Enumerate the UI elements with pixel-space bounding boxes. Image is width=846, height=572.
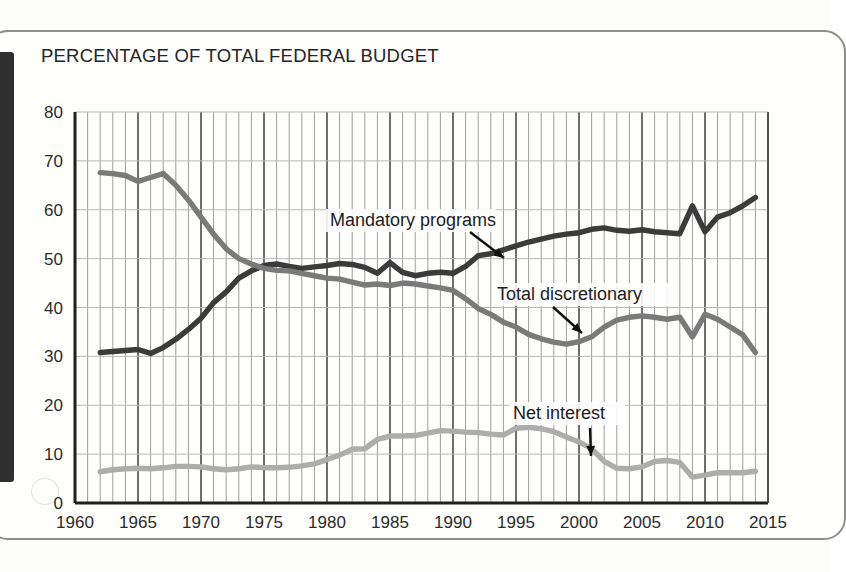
x-tick-label: 1980 — [308, 513, 346, 532]
y-tick-label: 40 — [44, 299, 63, 318]
y-tick-label: 30 — [44, 347, 63, 366]
y-tick-label: 10 — [44, 445, 63, 464]
y-tick-label: 60 — [44, 201, 63, 220]
y-tick-label: 0 — [54, 494, 63, 513]
x-tick-label: 1975 — [245, 513, 283, 532]
x-tick-label: 1960 — [56, 513, 94, 532]
net-interest-label: Net interest — [513, 403, 605, 423]
x-tick-label: 2005 — [623, 513, 661, 532]
y-axis-tick-labels: 01020304050607080 — [44, 103, 63, 513]
y-tick-label: 70 — [44, 152, 63, 171]
x-tick-label: 2010 — [686, 513, 724, 532]
x-tick-label: 1995 — [497, 513, 535, 532]
mandatory-programs-label: Mandatory programs — [330, 210, 496, 230]
x-axis-tick-labels: 1960196519701975198019851990199520002005… — [56, 513, 787, 532]
x-tick-label: 1970 — [182, 513, 220, 532]
x-tick-label: 1965 — [119, 513, 157, 532]
y-tick-label: 20 — [44, 396, 63, 415]
x-tick-label: 1985 — [371, 513, 409, 532]
x-tick-label: 1990 — [434, 513, 472, 532]
x-tick-label: 2015 — [749, 513, 787, 532]
y-tick-label: 50 — [44, 250, 63, 269]
total-discretionary-label: Total discretionary — [497, 284, 642, 304]
x-tick-label: 2000 — [560, 513, 598, 532]
y-tick-label: 80 — [44, 103, 63, 122]
